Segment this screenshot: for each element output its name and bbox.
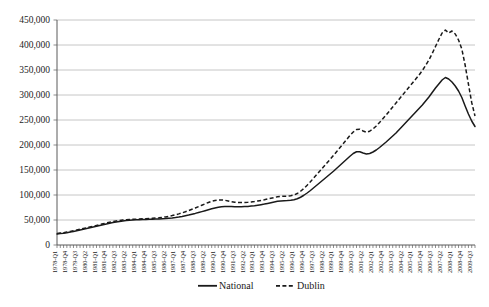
y-tick-label: 100,000 <box>19 190 50 200</box>
x-tick-label: 2005-Q4 <box>416 251 423 273</box>
x-tick-label: 2004-Q2 <box>397 251 404 273</box>
x-tick-label: 1987-Q1 <box>169 251 176 273</box>
x-tick-label: 2006-Q3 <box>426 251 433 273</box>
x-tick-label: 1991-Q3 <box>229 251 236 273</box>
y-tick-label: 300,000 <box>19 90 50 100</box>
x-tick-label: 2009-Q3 <box>466 251 473 273</box>
x-tick-label: 1989-Q2 <box>199 251 206 273</box>
x-tick-label: 1981-Q1 <box>91 251 98 273</box>
legend: NationalDublin <box>198 280 325 291</box>
legend-label-dublin: Dublin <box>297 280 325 291</box>
x-tick-label: 1990-Q1 <box>209 251 216 273</box>
x-tick-label: 2008-Q4 <box>456 251 463 273</box>
x-tick-label: 1986-Q2 <box>160 251 167 273</box>
line-chart: 050,000100,000150,000200,000250,000300,0… <box>0 0 489 307</box>
legend-label-national: National <box>219 280 254 291</box>
y-tick-label: 50,000 <box>24 215 50 225</box>
x-tick-label: 1987-Q4 <box>179 251 186 273</box>
x-tick-label: 1996-Q1 <box>288 251 295 273</box>
y-tick-label: 400,000 <box>19 40 50 50</box>
x-tick-label: 2007-Q2 <box>436 251 443 273</box>
x-tick-label: 1984-Q4 <box>140 251 147 273</box>
y-tick-label: 450,000 <box>19 15 50 25</box>
x-tick-label: 1979-Q3 <box>71 251 78 273</box>
x-tick-label: 1992-Q2 <box>239 251 246 273</box>
x-tick-label: 1988-Q3 <box>189 251 196 273</box>
x-tick-label: 1999-Q4 <box>337 251 344 273</box>
y-tick-label: 0 <box>45 240 50 250</box>
x-tick-label: 1984-Q1 <box>130 251 137 273</box>
x-tick-label: 1997-Q3 <box>308 251 315 273</box>
y-tick-label: 150,000 <box>19 165 50 175</box>
chart-container: 050,000100,000150,000200,000250,000300,0… <box>0 0 489 307</box>
x-tick-label: 2002-Q4 <box>377 251 384 273</box>
x-tick-label: 2002-Q1 <box>367 251 374 273</box>
x-tick-label: 2003-Q3 <box>387 251 394 273</box>
x-tick-label: 1982-Q3 <box>110 251 117 273</box>
x-tick-label: 1978-Q1 <box>51 251 58 273</box>
x-tick-label: 1995-Q2 <box>278 251 285 273</box>
x-tick-label: 1994-Q3 <box>268 251 275 273</box>
x-tick-label: 2005-Q1 <box>406 251 413 273</box>
x-tick-label: 1993-Q1 <box>248 251 255 273</box>
x-tick-label: 1993-Q4 <box>258 251 265 273</box>
data-series-group <box>57 30 475 234</box>
x-tick-label: 1998-Q2 <box>318 251 325 273</box>
y-tick-label: 250,000 <box>19 115 50 125</box>
x-tick-label: 1983-Q2 <box>120 251 127 273</box>
y-tick-label: 200,000 <box>19 140 50 150</box>
gridlines-group <box>57 20 475 220</box>
series-line-dublin <box>57 30 475 234</box>
x-tick-label: 2000-Q3 <box>347 251 354 273</box>
x-tick-label: 2008-Q1 <box>446 251 453 273</box>
series-line-national <box>57 78 475 235</box>
x-tick-label: 1990-Q4 <box>219 251 226 273</box>
y-tick-label: 350,000 <box>19 65 50 75</box>
x-tick-label: 1999-Q1 <box>327 251 334 273</box>
x-tick-label: 1985-Q3 <box>150 251 157 273</box>
y-axis-tick-labels: 050,000100,000150,000200,000250,000300,0… <box>19 15 57 250</box>
x-tick-label: 1996-Q4 <box>298 251 305 273</box>
x-tick-label: 1981-Q4 <box>100 251 107 273</box>
x-tick-label: 2001-Q2 <box>357 251 364 273</box>
x-tick-label: 1978-Q4 <box>61 251 68 273</box>
x-axis-tick-labels: 1978-Q11978-Q41979-Q31980-Q21981-Q11981-… <box>51 251 473 273</box>
x-tick-label: 1980-Q2 <box>81 251 88 273</box>
